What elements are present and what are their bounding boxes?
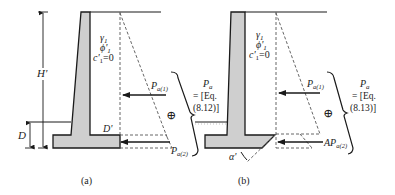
caption-a: (a) — [81, 175, 92, 187]
pressure-diagram-a — [120, 12, 172, 148]
d-prime-label-a: D' — [102, 123, 113, 134]
panel-b: α' γ1 ϕ'1 c'1=0 Pa(1) APa(2) ⊕ Pa = [Eq.… — [195, 12, 376, 187]
force-label-pa1-b: Pa(1) — [306, 78, 324, 91]
svg-text:(8.13)]: (8.13)] — [350, 103, 376, 114]
force-label-pa2-a: Pa(2) — [170, 145, 188, 158]
angle-label-b: α' — [229, 151, 237, 162]
svg-text:Pa: Pa — [202, 78, 213, 91]
sum-symbol-a: ⊕ — [166, 108, 176, 122]
svg-text:c'1=0: c'1=0 — [249, 49, 270, 62]
depth-dimension-a — [25, 123, 35, 148]
result-label-b: Pa = [Eq. (8.13)] — [350, 78, 376, 114]
retaining-wall-diagram: H' D D' γ1 ϕ'1 c'1=0 Pa(1) Pa(2) ⊕ Pa = … — [0, 0, 395, 195]
svg-text:= [Eq.: = [Eq. — [193, 91, 217, 101]
angle-arc-b — [241, 152, 247, 160]
result-label-a: Pa = [Eq. (8.12)] — [193, 78, 219, 114]
force-label-pa1-a: Pa(1) — [150, 80, 168, 93]
soil-properties-a: γ1 ϕ'1 c'1=0 — [93, 32, 114, 65]
soil-properties-b: γ1 ϕ'1 c'1=0 — [249, 29, 270, 62]
caption-b: (b) — [238, 175, 250, 187]
svg-text:c'1=0: c'1=0 — [93, 52, 114, 65]
svg-text:(8.12)]: (8.12)] — [193, 103, 219, 114]
sum-symbol-b: ⊕ — [323, 106, 333, 120]
panel-a: H' D D' γ1 ϕ'1 c'1=0 Pa(1) Pa(2) ⊕ Pa = … — [17, 12, 219, 187]
depth-label-a: D — [17, 129, 26, 141]
force-label-apa2-b: APa(2) — [323, 137, 347, 150]
retaining-wall-b — [205, 12, 275, 148]
height-label-a: H' — [36, 67, 48, 79]
svg-text:Pa: Pa — [359, 78, 370, 91]
svg-text:= [Eq.: = [Eq. — [352, 91, 376, 101]
height-dimension-a — [38, 12, 48, 148]
